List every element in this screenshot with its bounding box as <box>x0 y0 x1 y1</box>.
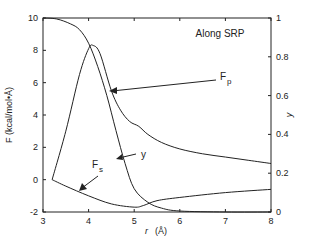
series-y <box>43 18 271 212</box>
chart-annotation-title: Along SRP <box>196 28 245 39</box>
fs-label: Fs <box>92 159 103 174</box>
y-tick-label: 6 <box>33 78 38 88</box>
x-axis: 345678 <box>40 18 273 226</box>
y-axis-label: F (kcal/mol•Å) <box>4 87 14 143</box>
series-fs <box>52 180 271 208</box>
y-curve-label: y <box>141 149 146 160</box>
y-tick-label: 4 <box>33 110 38 120</box>
fs-arrow-icon <box>79 176 98 191</box>
series <box>43 18 271 212</box>
x-tick-label: 8 <box>268 216 273 226</box>
y-tick-label: 8 <box>33 45 38 55</box>
fp-arrow-icon <box>109 80 216 94</box>
x-tick-label: 7 <box>223 216 228 226</box>
y2-tick-label: 0.4 <box>276 129 289 139</box>
y2-tick-label: 1 <box>276 13 281 23</box>
y-tick-label: 2 <box>33 142 38 152</box>
series-fp <box>52 45 271 180</box>
fp-label: Fp <box>220 71 232 86</box>
y-tick-label: -2 <box>30 207 38 217</box>
y2-tick-label: 0.2 <box>276 168 289 178</box>
x-axis-label-r: r <box>145 226 149 236</box>
x-axis-label-unit: (Å) <box>155 226 167 236</box>
x-tick-label: 3 <box>40 216 45 226</box>
y-tick-label: 0 <box>33 175 38 185</box>
x-tick-label: 4 <box>86 216 91 226</box>
x-tick-label: 5 <box>132 216 137 226</box>
y-arrow-icon <box>116 154 136 160</box>
chart: 345678 -20246810 00.20.40.60.81 Along SR… <box>0 0 309 247</box>
y2-axis-label: y <box>284 112 294 118</box>
plot-frame <box>43 18 271 212</box>
y2-tick-label: 0.6 <box>276 91 289 101</box>
y2-tick-label: 0 <box>276 207 281 217</box>
y2-tick-label: 0.8 <box>276 52 289 62</box>
y-tick-label: 10 <box>28 13 38 23</box>
x-tick-label: 6 <box>177 216 182 226</box>
